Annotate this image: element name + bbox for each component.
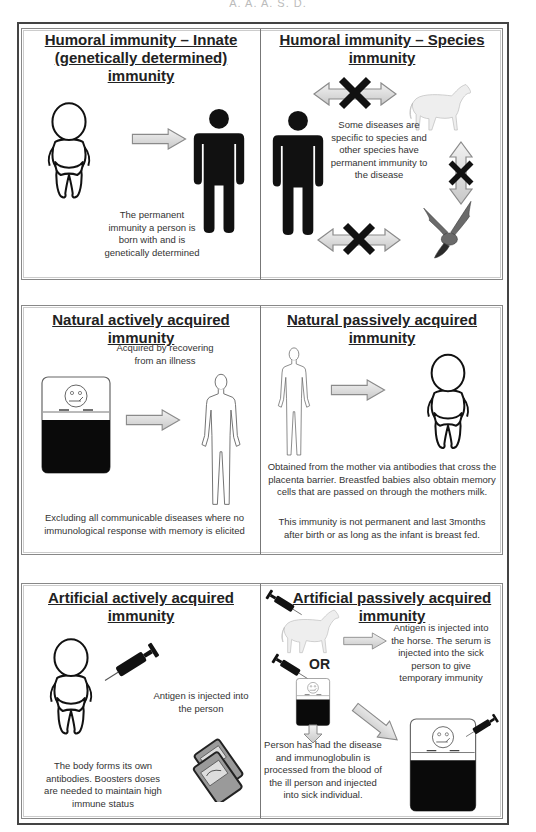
panel-title: Humoral immunity – Species immunity (261, 31, 503, 67)
innate-description: The permanent immunity a person is born … (102, 209, 202, 259)
arrow-right-icon (130, 128, 188, 150)
sick-patient-in-bed-icon (295, 678, 331, 726)
row-artificial: Artificial actively acquired immunity An… (21, 583, 503, 819)
panel-natural-passive: Natural passively acquired immunity Obta… (261, 306, 503, 554)
header-fragment: A. A. A. S. D. (0, 0, 536, 14)
baby-icon (48, 632, 94, 744)
row-natural: Natural actively acquired immunity Acqui… (21, 305, 503, 555)
row-humoral: Humoral immunity – Innate (genetically d… (21, 28, 503, 280)
horse-icon (281, 608, 341, 656)
arrow-right-icon (343, 632, 387, 650)
vaccine-vials-icon (190, 736, 250, 802)
natural-active-subtitle: Acquired by recovering from an illness (110, 342, 220, 367)
panel-species-immunity: Humoral immunity – Species immunity Some… (261, 29, 503, 279)
bird-icon (421, 193, 475, 265)
cross-icon (337, 73, 373, 113)
syringe-icon (100, 640, 166, 686)
panel-title: Artificial actively acquired immunity (22, 589, 260, 625)
panel-innate-immunity: Humoral immunity – Innate (genetically d… (22, 29, 260, 279)
artificial-active-description: The body forms its own antibodies. Boost… (38, 760, 168, 810)
artificial-active-injection-text: Antigen is injected into the person (148, 690, 254, 715)
panel-title: Natural passively acquired immunity (261, 311, 503, 347)
baby-icon (46, 95, 92, 209)
artificial-passive-horse-text: Antigen is injected into the horse. The … (389, 622, 493, 685)
arrow-right-icon (124, 409, 182, 431)
arrow-right-icon (329, 379, 387, 401)
cross-icon (447, 157, 475, 189)
panel-title: Humoral immunity – Innate (genetically d… (22, 31, 260, 85)
syringe-icon (463, 712, 503, 740)
adult-silhouette-icon (271, 103, 325, 243)
natural-passive-note: This immunity is not permanent and last … (271, 516, 493, 541)
outline-person-icon (273, 346, 315, 458)
cross-icon (341, 219, 377, 259)
or-label: OR (309, 656, 330, 672)
baby-icon (425, 353, 471, 453)
natural-active-description: Excluding all communicable diseases wher… (42, 512, 247, 537)
natural-passive-description: Obtained from the mother via antibodies … (267, 461, 497, 499)
panel-natural-active: Natural actively acquired immunity Acqui… (22, 306, 260, 554)
diagonal-arrow-icon (343, 694, 409, 750)
outline-person-icon (196, 372, 246, 508)
sick-patient-in-bed-icon (40, 376, 112, 474)
panel-artificial-active: Artificial actively acquired immunity An… (22, 584, 260, 818)
panel-artificial-passive: Artificial passively acquired immunity A… (261, 584, 503, 818)
species-description: Some diseases are specific to species an… (329, 119, 429, 182)
